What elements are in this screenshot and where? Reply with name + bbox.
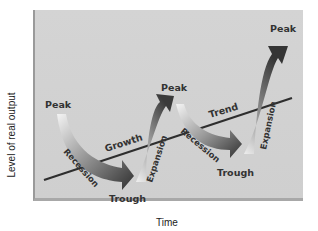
expansion-label-1: Expansion: [144, 134, 169, 184]
peak-label-2: Peak: [161, 82, 188, 93]
trough-label-2: Trough: [217, 167, 254, 178]
trough-label-1: Trough: [109, 193, 146, 204]
growth-label: Growth: [103, 131, 144, 154]
business-cycle-diagram: Peak Peak Peak Trough Trough Growth Tren…: [0, 0, 318, 231]
peak-label-3: Peak: [270, 23, 297, 34]
peak-label-1: Peak: [45, 99, 72, 110]
